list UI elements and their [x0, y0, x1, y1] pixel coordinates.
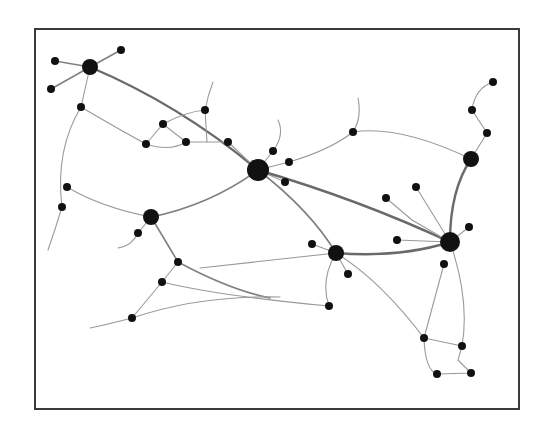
- leaf-node: [483, 129, 491, 137]
- edge: [162, 282, 329, 306]
- leaf-node: [51, 57, 59, 65]
- network-graph: [0, 0, 550, 433]
- edge: [205, 82, 213, 110]
- nodes-layer: [47, 46, 497, 378]
- leaf-node: [468, 106, 476, 114]
- edge: [48, 207, 62, 250]
- hub-node: [328, 245, 344, 261]
- leaf-node: [47, 85, 55, 93]
- leaf-node: [142, 140, 150, 148]
- leaf-node: [158, 278, 166, 286]
- edges-layer: [48, 50, 493, 374]
- edge: [61, 107, 81, 207]
- edge: [67, 187, 151, 217]
- hub-node: [82, 59, 98, 75]
- edge: [90, 318, 132, 328]
- leaf-node: [433, 370, 441, 378]
- edge: [200, 253, 336, 268]
- leaf-node: [128, 314, 136, 322]
- hub-node: [143, 209, 159, 225]
- leaf-node: [182, 138, 190, 146]
- hub-node: [463, 151, 479, 167]
- leaf-node: [412, 183, 420, 191]
- edge: [353, 131, 471, 159]
- leaf-node: [224, 138, 232, 146]
- leaf-node: [393, 236, 401, 244]
- leaf-node: [467, 369, 475, 377]
- leaf-node: [285, 158, 293, 166]
- edge: [471, 82, 493, 159]
- leaf-node: [382, 194, 390, 202]
- edge: [336, 253, 424, 338]
- edge: [326, 253, 336, 306]
- leaf-node: [63, 183, 71, 191]
- leaf-node: [174, 258, 182, 266]
- leaf-node: [134, 229, 142, 237]
- leaf-node: [349, 128, 357, 136]
- edge: [450, 242, 464, 346]
- leaf-node: [440, 260, 448, 268]
- leaf-node: [77, 103, 85, 111]
- edge: [424, 338, 462, 346]
- leaf-node: [117, 46, 125, 54]
- edge: [151, 217, 270, 298]
- edge: [336, 242, 450, 254]
- leaf-node: [281, 178, 289, 186]
- leaf-node: [325, 302, 333, 310]
- leaf-node: [420, 334, 428, 342]
- leaf-node: [269, 147, 277, 155]
- hub-node: [247, 159, 269, 181]
- edge: [146, 124, 186, 144]
- leaf-node: [58, 203, 66, 211]
- leaf-node: [465, 223, 473, 231]
- edge: [132, 297, 280, 318]
- hub-node: [440, 232, 460, 252]
- leaf-node: [489, 78, 497, 86]
- leaf-node: [308, 240, 316, 248]
- leaf-node: [344, 270, 352, 278]
- edge: [151, 170, 258, 217]
- leaf-node: [458, 342, 466, 350]
- edge: [81, 107, 146, 144]
- leaf-node: [159, 120, 167, 128]
- leaf-node: [201, 106, 209, 114]
- edge: [258, 98, 359, 170]
- edge: [424, 264, 444, 338]
- edge: [132, 262, 178, 318]
- edge: [386, 198, 450, 242]
